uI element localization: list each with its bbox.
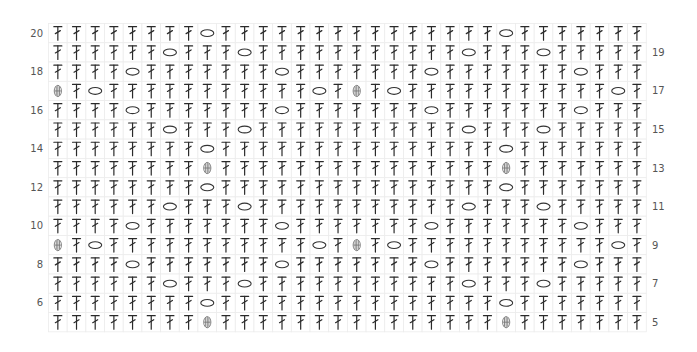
dc-stitch-cell xyxy=(142,255,161,274)
dc-stitch-cell xyxy=(385,293,404,312)
dc-stitch-cell xyxy=(534,81,553,100)
dc-stitch-cell xyxy=(217,81,236,100)
dc-stitch-cell xyxy=(310,178,329,197)
dc-stitch-cell xyxy=(478,62,497,81)
dc-stitch-cell xyxy=(105,313,124,332)
dc-stitch-cell xyxy=(628,158,647,177)
dc-stitch-cell xyxy=(534,216,553,235)
dc-stitch-cell xyxy=(217,216,236,235)
dc-stitch-cell xyxy=(516,274,535,293)
dc-stitch-cell xyxy=(441,235,460,254)
dc-stitch-cell xyxy=(291,197,310,216)
dc-stitch-cell xyxy=(478,178,497,197)
dc-stitch-cell xyxy=(403,235,422,254)
dc-stitch-cell xyxy=(273,293,292,312)
dc-stitch-cell xyxy=(142,24,161,43)
dc-stitch-cell xyxy=(105,274,124,293)
chain-stitch-cell xyxy=(385,235,404,254)
dc-stitch-cell xyxy=(403,313,422,332)
dc-stitch-cell xyxy=(142,101,161,120)
dc-stitch-cell xyxy=(67,81,86,100)
dc-stitch-cell xyxy=(179,197,198,216)
dc-stitch-cell xyxy=(459,62,478,81)
chain-stitch-cell xyxy=(609,81,628,100)
dc-stitch-cell xyxy=(310,293,329,312)
chain-stitch-cell xyxy=(609,235,628,254)
dc-stitch-cell xyxy=(67,62,86,81)
dc-stitch-cell xyxy=(628,293,647,312)
dc-stitch-cell xyxy=(329,235,348,254)
chain-stitch-cell xyxy=(534,197,553,216)
dc-stitch-cell xyxy=(385,216,404,235)
row-label-9: 9 xyxy=(652,240,658,251)
dc-stitch-cell xyxy=(49,158,68,177)
dc-stitch-cell xyxy=(590,81,609,100)
dc-stitch-cell xyxy=(441,139,460,158)
dc-stitch-cell xyxy=(123,24,142,43)
dc-stitch-cell xyxy=(366,139,385,158)
dc-stitch-cell xyxy=(516,101,535,120)
dc-stitch-cell xyxy=(179,139,198,158)
dc-stitch-cell xyxy=(161,81,180,100)
dc-stitch-cell xyxy=(590,255,609,274)
dc-stitch-cell xyxy=(385,24,404,43)
dc-stitch-cell xyxy=(161,158,180,177)
chain-stitch-cell xyxy=(310,235,329,254)
dc-stitch-cell xyxy=(553,62,572,81)
dc-stitch-cell xyxy=(217,24,236,43)
dc-stitch-cell xyxy=(403,81,422,100)
dc-stitch-cell xyxy=(385,178,404,197)
dc-stitch-cell xyxy=(534,62,553,81)
dc-stitch-cell xyxy=(366,81,385,100)
dc-stitch-cell xyxy=(534,313,553,332)
dc-stitch-cell xyxy=(628,274,647,293)
dc-stitch-cell xyxy=(198,120,217,139)
dc-stitch-cell xyxy=(179,81,198,100)
chain-stitch-cell xyxy=(459,43,478,62)
dc-stitch-cell xyxy=(198,197,217,216)
dc-stitch-cell xyxy=(310,274,329,293)
dc-stitch-cell xyxy=(161,101,180,120)
dc-stitch-cell xyxy=(478,24,497,43)
dc-stitch-cell xyxy=(123,235,142,254)
dc-stitch-cell xyxy=(553,274,572,293)
dc-stitch-cell xyxy=(497,43,516,62)
dc-stitch-cell xyxy=(441,293,460,312)
dc-stitch-cell xyxy=(217,62,236,81)
puff-icon xyxy=(54,85,61,96)
dc-stitch-cell xyxy=(534,24,553,43)
dc-stitch-cell xyxy=(347,158,366,177)
dc-stitch-cell xyxy=(385,43,404,62)
dc-stitch-cell xyxy=(291,43,310,62)
dc-stitch-cell xyxy=(310,101,329,120)
dc-stitch-cell xyxy=(329,81,348,100)
dc-stitch-cell xyxy=(366,216,385,235)
dc-stitch-cell xyxy=(105,178,124,197)
dc-stitch-cell xyxy=(254,255,273,274)
dc-stitch-cell xyxy=(516,81,535,100)
chain-stitch-cell xyxy=(497,139,516,158)
dc-stitch-cell xyxy=(534,255,553,274)
dc-stitch-cell xyxy=(254,43,273,62)
dc-stitch-cell xyxy=(590,197,609,216)
dc-stitch-cell xyxy=(478,216,497,235)
dc-stitch-cell xyxy=(347,216,366,235)
dc-stitch-cell xyxy=(105,139,124,158)
dc-stitch-cell xyxy=(273,197,292,216)
chain-stitch-cell xyxy=(198,139,217,158)
dc-stitch-cell xyxy=(161,313,180,332)
dc-stitch-cell xyxy=(49,139,68,158)
dc-stitch-cell xyxy=(609,216,628,235)
dc-stitch-cell xyxy=(516,235,535,254)
dc-stitch-cell xyxy=(235,81,254,100)
dc-stitch-cell xyxy=(459,313,478,332)
chain-stitch-cell xyxy=(534,43,553,62)
dc-stitch-cell xyxy=(105,120,124,139)
dc-stitch-cell xyxy=(86,197,105,216)
dc-stitch-cell xyxy=(86,120,105,139)
dc-stitch-cell xyxy=(67,197,86,216)
dc-stitch-cell xyxy=(142,178,161,197)
dc-stitch-cell xyxy=(385,158,404,177)
dc-stitch-cell xyxy=(217,274,236,293)
dc-stitch-cell xyxy=(179,120,198,139)
